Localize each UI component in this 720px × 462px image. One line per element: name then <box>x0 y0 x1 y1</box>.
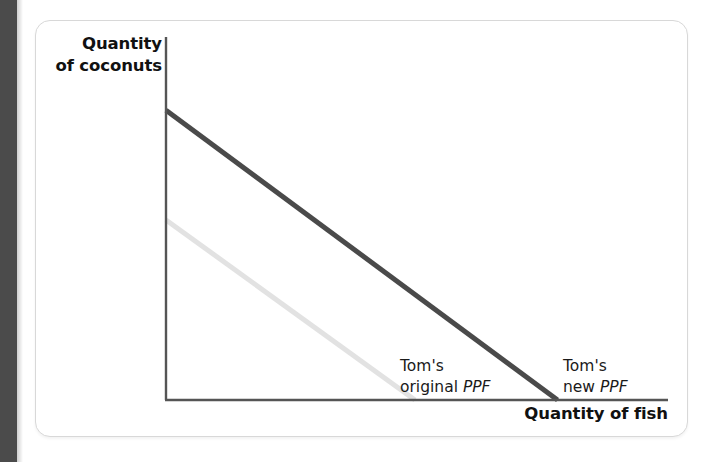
chart-plot-area: Quantity of coconuts Quantity of fish To… <box>0 0 720 462</box>
y-axis-title: Quantity of coconuts <box>40 33 162 77</box>
annotation-original-line1: Tom's <box>400 356 490 377</box>
x-axis-title: Quantity of fish <box>430 404 668 423</box>
ppf-line-original <box>166 220 415 400</box>
y-axis-title-line1: Quantity <box>40 33 162 55</box>
annotation-original-ppf-italic: PPF <box>463 378 491 396</box>
annotation-original-line2: original PPF <box>400 377 490 398</box>
annotation-new-line2: new PPF <box>563 377 628 398</box>
annotation-new-ppf-italic: PPF <box>600 378 628 396</box>
annotation-original-ppf: Tom's original PPF <box>400 356 490 398</box>
annotation-original-prefix: original <box>400 378 463 396</box>
annotation-new-ppf: Tom's new PPF <box>563 356 628 398</box>
y-axis-title-line2: of coconuts <box>40 55 162 77</box>
annotation-new-line1: Tom's <box>563 356 628 377</box>
ppf-line-new <box>166 110 558 400</box>
annotation-new-prefix: new <box>563 378 600 396</box>
